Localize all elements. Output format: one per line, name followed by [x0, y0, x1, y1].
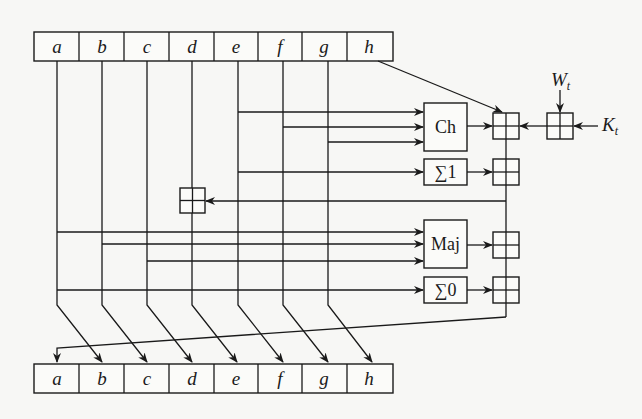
sha256-round-diagram: a b c d e f g h Ch: [0, 0, 642, 419]
svg-text:Maj: Maj: [431, 234, 460, 254]
w-t-label: Wt: [551, 69, 571, 93]
svg-text:Ch: Ch: [435, 117, 456, 137]
output-register-b: b: [97, 368, 107, 389]
adder-1-icon: [493, 113, 519, 139]
output-register-row: a b c d e f g h: [34, 364, 393, 393]
adder-w-k-icon: [547, 113, 573, 139]
input-register-g: g: [319, 36, 329, 57]
output-register-g: g: [319, 368, 329, 389]
maj-input-wires: [57, 232, 423, 261]
new-a-wire: [57, 317, 506, 362]
sigma0-function-box: ∑0: [424, 277, 467, 303]
register-wires: [57, 61, 372, 362]
adder-4-icon: [493, 277, 519, 303]
input-register-c: c: [143, 36, 152, 57]
output-register-c: c: [143, 368, 152, 389]
adder-2-icon: [493, 159, 519, 185]
ch-function-box: Ch: [424, 103, 467, 151]
k-t-label: Kt: [601, 114, 619, 138]
adder-d-icon: [180, 188, 205, 213]
ch-input-wires: [238, 112, 423, 142]
output-register-h: h: [364, 368, 374, 389]
adder-3-icon: [493, 232, 519, 258]
input-register-h: h: [364, 36, 374, 57]
svg-text:∑0: ∑0: [435, 280, 457, 300]
input-register-a: a: [52, 36, 62, 57]
input-register-e: e: [232, 36, 240, 57]
input-register-b: b: [97, 36, 107, 57]
output-register-a: a: [52, 368, 62, 389]
sigma1-function-box: ∑1: [424, 159, 467, 185]
output-register-e: e: [232, 368, 240, 389]
output-register-d: d: [187, 368, 197, 389]
svg-text:∑1: ∑1: [435, 162, 457, 182]
input-register-d: d: [187, 36, 197, 57]
maj-function-box: Maj: [424, 220, 467, 268]
input-register-row: a b c d e f g h: [34, 32, 393, 61]
